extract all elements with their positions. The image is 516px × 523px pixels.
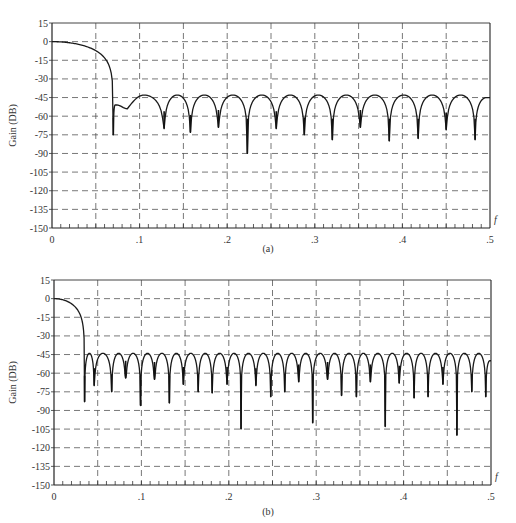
- y-tick-label: 0: [43, 36, 48, 47]
- x-tick-label: .2: [223, 234, 231, 245]
- y-tick-labels: 150-15-30-45-60-75-90-105-120-135-150: [32, 275, 54, 491]
- x-tick-label: 0: [50, 234, 55, 245]
- y-tick-label: 15: [40, 275, 50, 286]
- x-tick-label: .4: [400, 491, 408, 502]
- y-tick-label: -75: [37, 386, 50, 397]
- y-tick-label: -45: [37, 349, 50, 360]
- chart-panel-b: 150-15-30-45-60-75-90-105-120-135-1500.1…: [7, 275, 499, 519]
- x-tick-label: .3: [312, 491, 320, 502]
- y-tick-label: -135: [32, 461, 50, 472]
- y-tick-label: -150: [32, 480, 50, 491]
- grid: [52, 23, 490, 228]
- panel-caption: (b): [262, 506, 274, 518]
- x-tick-label: .5: [487, 491, 495, 502]
- y-tick-label: -90: [37, 405, 50, 416]
- chart-panel-a: 150-15-30-45-60-75-90-105-120-135-1500.1…: [7, 18, 498, 256]
- x-tick-labels: 0.1.2.3.4.5: [52, 491, 495, 502]
- x-tick-label: .5: [486, 234, 494, 245]
- x-tick-label: .3: [311, 234, 319, 245]
- y-tick-label: -30: [37, 330, 50, 341]
- grid: [54, 280, 491, 485]
- x-axis-label: f: [494, 214, 498, 225]
- y-tick-label: -15: [35, 55, 48, 66]
- y-tick-label: -105: [32, 424, 50, 435]
- y-tick-label: -45: [35, 92, 48, 103]
- y-tick-label: -60: [37, 368, 50, 379]
- y-tick-label: -30: [35, 73, 48, 84]
- x-axis-label: f: [495, 471, 499, 482]
- x-tick-label: .1: [138, 491, 146, 502]
- y-tick-label: -135: [30, 204, 48, 215]
- y-axis-label: Gain (DB): [7, 104, 19, 147]
- y-tick-label: -60: [35, 111, 48, 122]
- y-tick-label: -150: [30, 223, 48, 234]
- y-tick-label: -75: [35, 129, 48, 140]
- y-tick-label: -105: [30, 167, 48, 178]
- y-tick-label: -15: [37, 312, 50, 323]
- x-tick-label: 0: [52, 491, 57, 502]
- x-tick-label: .1: [136, 234, 144, 245]
- y-tick-label: 15: [38, 18, 48, 29]
- y-tick-label: -120: [32, 442, 50, 453]
- y-axis-label: Gain (DB): [7, 361, 19, 404]
- figure: 150-15-30-45-60-75-90-105-120-135-1500.1…: [0, 0, 516, 523]
- panel-caption: (a): [262, 243, 273, 255]
- x-tick-label: .4: [399, 234, 407, 245]
- x-tick-label: .2: [225, 491, 233, 502]
- y-tick-label: -90: [35, 148, 48, 159]
- y-tick-label: 0: [45, 293, 50, 304]
- y-tick-labels: 150-15-30-45-60-75-90-105-120-135-150: [30, 18, 52, 234]
- y-tick-label: -120: [30, 185, 48, 196]
